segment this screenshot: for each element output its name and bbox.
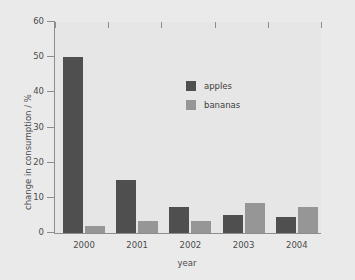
x-axis-tick-label: 2003 xyxy=(214,240,274,250)
bar-bananas-2004 xyxy=(298,207,318,233)
y-axis-tick: 0 xyxy=(47,232,55,233)
y-axis-tick: 60 xyxy=(47,21,55,22)
y-axis-tick-label: 0 xyxy=(39,227,44,238)
bar-group: 2002 xyxy=(169,22,214,233)
x-axis-tick-label: 2000 xyxy=(54,240,114,250)
bar-group: 2003 xyxy=(223,22,268,233)
bar-group: 2001 xyxy=(116,22,161,233)
bar-apples-2004 xyxy=(276,217,296,233)
y-axis-tick-label: 10 xyxy=(33,192,44,203)
bar-apples-2002 xyxy=(169,207,189,233)
y-axis-title: change in consumption / % xyxy=(12,60,26,210)
legend-label-bananas: bananas xyxy=(204,100,240,110)
x-axis-tick xyxy=(321,22,322,28)
x-axis-tick-label: 2004 xyxy=(267,240,327,250)
bar-series-container: 20002001200220032004 xyxy=(55,22,321,233)
chart-legend: apples bananas xyxy=(186,81,240,119)
y-axis-tick-label: 30 xyxy=(33,122,44,133)
bar-bananas-2000 xyxy=(85,226,105,233)
y-axis-tick-label: 40 xyxy=(33,86,44,97)
y-axis-tick: 10 xyxy=(47,197,55,198)
bar-apples-2000 xyxy=(63,57,83,233)
bar-bananas-2003 xyxy=(245,203,265,233)
bar-apples-2003 xyxy=(223,215,243,233)
bar-bananas-2001 xyxy=(138,221,158,233)
bar-group: 2004 xyxy=(276,22,321,233)
y-axis-title-text: change in consumption / % xyxy=(23,94,33,210)
x-axis-tick-label: 2001 xyxy=(107,240,167,250)
y-axis-tick: 20 xyxy=(47,162,55,163)
legend-item-bananas: bananas xyxy=(186,100,240,110)
bar-group: 2000 xyxy=(63,22,108,233)
y-axis-tick-label: 50 xyxy=(33,51,44,62)
bar-apples-2001 xyxy=(116,180,136,233)
plot-area: 0102030405060 20002001200220032004 xyxy=(54,22,321,234)
x-axis-title-text: year xyxy=(178,258,197,268)
y-axis-tick-label: 60 xyxy=(33,16,44,27)
legend-item-apples: apples xyxy=(186,81,240,91)
legend-label-apples: apples xyxy=(204,81,232,91)
x-axis-tick-label: 2002 xyxy=(160,240,220,250)
chart-figure: change in consumption / % 0102030405060 … xyxy=(0,0,355,280)
x-axis-title: year xyxy=(54,258,320,268)
bar-bananas-2002 xyxy=(191,221,211,233)
y-axis-tick: 40 xyxy=(47,91,55,92)
legend-swatch-bananas-icon xyxy=(186,100,196,110)
y-axis-tick-label: 20 xyxy=(33,157,44,168)
y-axis-tick: 30 xyxy=(47,127,55,128)
legend-swatch-apples-icon xyxy=(186,81,196,91)
y-axis-tick: 50 xyxy=(47,56,55,57)
